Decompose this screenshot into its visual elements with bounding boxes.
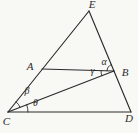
geometry-figure: E A B C D α γ β θ — [0, 0, 138, 133]
vertex-label-E: E — [88, 0, 96, 10]
angle-arc-alpha — [107, 65, 111, 71]
angle-arc-theta — [27, 105, 28, 112]
vertex-label-D: D — [124, 112, 133, 124]
angle-labels: α γ β θ — [24, 56, 108, 108]
angle-label-theta: θ — [33, 97, 38, 108]
angle-label-beta: β — [24, 85, 30, 96]
angle-arc-beta — [16, 102, 20, 108]
edge-ED — [89, 11, 131, 112]
angle-arc-gamma — [101, 71, 102, 76]
segment-AB — [42, 69, 114, 71]
figure-canvas: E A B C D α γ β θ — [0, 0, 138, 133]
angle-label-alpha: α — [101, 56, 107, 67]
vertex-label-B: B — [122, 66, 129, 78]
vertex-label-C: C — [3, 115, 11, 127]
vertex-label-A: A — [26, 60, 34, 72]
vertex-labels: E A B C D — [3, 0, 133, 127]
